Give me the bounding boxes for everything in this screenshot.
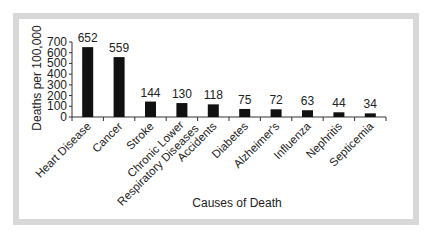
- category-labels: Heart DiseaseCancerStrokeChronic LowerRe…: [33, 113, 376, 208]
- bar: [176, 103, 187, 117]
- value-label: 130: [172, 87, 192, 101]
- bar: [114, 57, 125, 117]
- bar: [271, 109, 282, 117]
- value-label: 72: [269, 93, 283, 107]
- y-axis-title: Deaths per 100,000: [30, 25, 44, 131]
- value-label: 34: [364, 97, 378, 111]
- bar: [145, 102, 156, 117]
- value-label: 118: [204, 88, 223, 102]
- value-label: 559: [109, 41, 129, 55]
- svg-text:Respiratory Diseases: Respiratory Diseases: [115, 122, 201, 208]
- x-axis-title: Causes of Death: [192, 196, 281, 210]
- bar: [333, 112, 344, 117]
- bar: [239, 109, 250, 117]
- value-label: 75: [238, 93, 252, 107]
- value-label: 63: [301, 94, 315, 108]
- value-label: 652: [78, 31, 98, 45]
- value-label: 44: [332, 96, 346, 110]
- bar: [365, 113, 376, 117]
- bar-chart: Deaths per 100,000 Causes of Death 01002…: [0, 0, 444, 238]
- svg-text:Cancer: Cancer: [90, 120, 125, 155]
- bar: [302, 110, 313, 117]
- value-label: 144: [140, 86, 160, 100]
- category-label: Cancer: [90, 120, 125, 155]
- x-axis: [72, 117, 386, 121]
- y-tick-label: 700: [47, 35, 67, 49]
- bar: [82, 47, 93, 117]
- y-axis: 0100200300400500600700: [47, 35, 72, 124]
- bar: [208, 104, 219, 117]
